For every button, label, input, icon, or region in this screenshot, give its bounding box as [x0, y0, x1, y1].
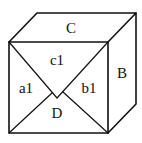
label-front-left-triangle: a1	[19, 80, 33, 96]
label-right-face: B	[117, 65, 127, 81]
label-front-right-triangle: b1	[82, 80, 97, 96]
fold-left-diagonal	[9, 93, 52, 133]
label-front-top-triangle: c1	[50, 52, 64, 68]
label-top-face: C	[66, 20, 76, 36]
label-front-bottom-triangle: D	[52, 105, 63, 121]
fold-right-diagonal	[63, 92, 108, 133]
cube-diagram: C B c1 a1 b1 D	[0, 0, 142, 143]
